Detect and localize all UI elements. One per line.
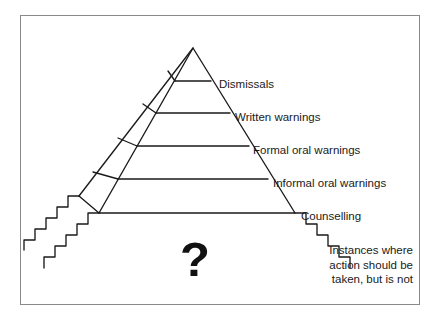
tier-label-dismissals: Dismissals: [219, 78, 274, 91]
footnote-line-2: action should be: [217, 258, 413, 273]
band-rung-5: [79, 196, 99, 213]
left-staircase-inner: [44, 213, 99, 268]
tier-label-formal-oral-warnings: Formal oral warnings: [253, 144, 360, 157]
band-rung-4: [93, 172, 118, 179]
question-mark: ?: [180, 235, 210, 284]
tier-label-counselling: Counselling: [301, 210, 361, 223]
diagram-canvas: Dismissals Written warnings Formal oral …: [0, 0, 440, 324]
footnote-line-1: Instances where: [217, 243, 413, 258]
tier-label-informal-oral-warnings: Informal oral warnings: [273, 177, 386, 190]
tier-label-written-warnings: Written warnings: [235, 111, 320, 124]
left-staircase-outer: [24, 196, 79, 250]
footnote-block: Instances where action should be taken, …: [217, 243, 413, 287]
diagram-frame: Dismissals Written warnings Formal oral …: [20, 15, 420, 305]
outer-left-edge: [79, 48, 193, 196]
footnote-line-3: taken, but is not: [217, 272, 413, 287]
pyramid-triangle: [99, 48, 295, 213]
